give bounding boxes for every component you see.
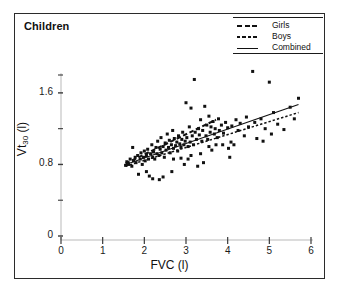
x-axis-title: FVC (l) [0, 258, 339, 272]
x-tick-label: 4 [208, 245, 248, 256]
legend-label-girls: Girls [272, 20, 289, 31]
chart-legend: Girls Boys Combined [233, 17, 323, 54]
page-title: Children [24, 20, 69, 32]
combined-line-key-icon [237, 43, 263, 53]
girls-line-key-icon [237, 21, 263, 31]
legend-label-boys: Boys [272, 31, 291, 42]
figure-container: Children Girls Boys Combined 0123456 00. [0, 0, 339, 292]
legend-item-girls: Girls [233, 20, 323, 31]
x-tick-label: 6 [291, 245, 331, 256]
legend-item-boys: Boys [233, 31, 323, 42]
legend-item-combined: Combined [233, 42, 323, 53]
x-tick-label: 3 [166, 245, 206, 256]
x-tick-label: 0 [41, 245, 81, 256]
x-tick-label: 1 [83, 245, 123, 256]
x-tick-label: 2 [124, 245, 164, 256]
legend-label-combined: Combined [272, 42, 311, 53]
x-tick-label: 5 [249, 245, 289, 256]
y-tick-label: 0 [13, 229, 53, 240]
y-axis-title: Vt30 (l) [15, 94, 29, 184]
boys-line-key-icon [237, 32, 263, 42]
